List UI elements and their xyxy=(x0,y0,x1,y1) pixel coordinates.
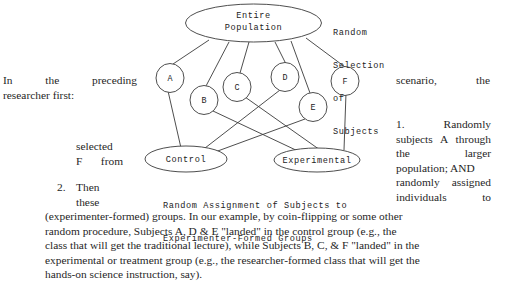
subject-node-e xyxy=(299,93,327,122)
intro-word-the2: the xyxy=(476,73,490,88)
right-col-word-the: the xyxy=(396,146,410,161)
right-col-line-4: population; AND xyxy=(396,161,491,176)
assignment-edges xyxy=(168,90,346,157)
subject-node-a xyxy=(156,64,184,93)
selection-caption-line2: Selection xyxy=(333,61,385,72)
population-label-line1: Entire xyxy=(236,11,271,21)
right-column-text: 1. Randomly subjects A through the large… xyxy=(396,117,491,205)
right-col-line-6: individuals to xyxy=(396,190,491,205)
subject-node-c xyxy=(223,73,251,102)
right-col-line-5: randomly assigned xyxy=(396,175,491,190)
body-paragraph-line-2: random procedure, Subjects A, D & E "lan… xyxy=(45,224,491,239)
intro-word-in: In xyxy=(3,73,13,88)
step2-line-1: Then xyxy=(76,180,126,195)
subject-label-b: B xyxy=(201,96,206,106)
right-col-word-through: through xyxy=(456,132,491,147)
population-label-line2: Population xyxy=(225,23,283,33)
population-node xyxy=(186,4,322,42)
right-col-line-3: the larger xyxy=(396,146,491,161)
document-page: Entire Population A B C D E F Control Ex… xyxy=(0,0,512,298)
right-col-word-assigned: assigned xyxy=(452,175,491,190)
subject-label-e: E xyxy=(310,103,315,113)
left-mid-line-2: F from xyxy=(76,154,123,169)
subject-node-b xyxy=(190,86,218,115)
right-col-word-individuals: individuals xyxy=(396,190,447,205)
control-node xyxy=(145,146,227,172)
subject-label-a: A xyxy=(167,74,173,84)
intro-line-2: researcher first: xyxy=(3,88,137,103)
left-mid-text: selected F from xyxy=(76,139,123,168)
step2-number: 2. xyxy=(57,180,66,194)
body-paragraph: (experimenter-formed) groups. In our exa… xyxy=(45,209,491,282)
intro-right-text: scenario, the xyxy=(396,73,490,88)
body-paragraph-line-5: hands-on science instruction, say). xyxy=(45,267,491,282)
selection-caption-line4: Subjects xyxy=(333,127,385,138)
left-mid-word-from: from xyxy=(101,154,123,169)
intro-word-scenario: scenario, xyxy=(396,73,437,88)
step2-line-2: these xyxy=(76,195,126,210)
right-col-word-larger: larger xyxy=(465,146,491,161)
selection-caption-line1: Random xyxy=(333,28,385,39)
right-col-item-number: 1. xyxy=(396,117,405,132)
left-mid-word-f: F xyxy=(76,154,82,169)
right-col-word-a: A xyxy=(440,132,448,147)
body-paragraph-line-4: experimental or treatment group (e.g., t… xyxy=(45,253,491,268)
intro-left-text: In the preceding researcher first: xyxy=(3,73,137,102)
right-col-line-1: 1. Randomly xyxy=(396,117,491,132)
step2-text: Then these xyxy=(76,180,126,209)
subject-label-d: D xyxy=(282,73,287,83)
right-col-line-2: subjects A through xyxy=(396,132,491,147)
right-col-word-subjects: subjects xyxy=(396,132,433,147)
intro-word-the: the xyxy=(45,73,59,88)
body-paragraph-line-3: class that will get the traditional lect… xyxy=(45,238,491,253)
subject-label-c: C xyxy=(234,83,239,93)
body-paragraph-line-1: (experimenter-formed) groups. In our exa… xyxy=(45,209,491,224)
selection-caption: Random Selection of Subjects xyxy=(333,6,385,160)
control-label: Control xyxy=(166,155,206,165)
right-col-word-to: to xyxy=(482,190,491,205)
intro-line-1: In the preceding xyxy=(3,73,137,88)
intro-word-preceding: preceding xyxy=(92,73,137,88)
left-mid-line-1: selected xyxy=(76,139,123,154)
right-col-word-randomly2: randomly xyxy=(396,175,440,190)
subject-node-d xyxy=(271,63,299,92)
intro-right-line: scenario, the xyxy=(396,73,490,88)
selection-caption-line3: of xyxy=(333,94,385,105)
selection-edges xyxy=(173,38,345,93)
right-col-word-randomly: Randomly xyxy=(444,117,491,132)
